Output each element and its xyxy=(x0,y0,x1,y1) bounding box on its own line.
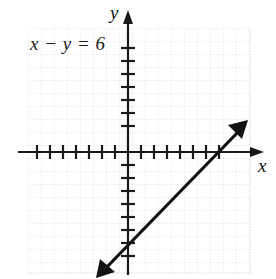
y-axis-label: y xyxy=(110,2,118,24)
x-axis-label: x xyxy=(258,155,266,177)
coordinate-plane-figure: x − y = 6 y x xyxy=(0,0,276,279)
equation-label: x − y = 6 xyxy=(30,33,106,55)
